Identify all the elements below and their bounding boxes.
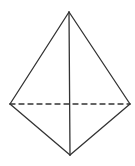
edge-top-left [10, 12, 69, 104]
solid-edges [10, 12, 130, 155]
edge-top-bottom [69, 12, 70, 155]
edge-right-bottom [70, 104, 130, 155]
bipyramid-diagram [0, 0, 135, 166]
edge-left-bottom [10, 104, 70, 155]
edge-top-right [69, 12, 130, 104]
